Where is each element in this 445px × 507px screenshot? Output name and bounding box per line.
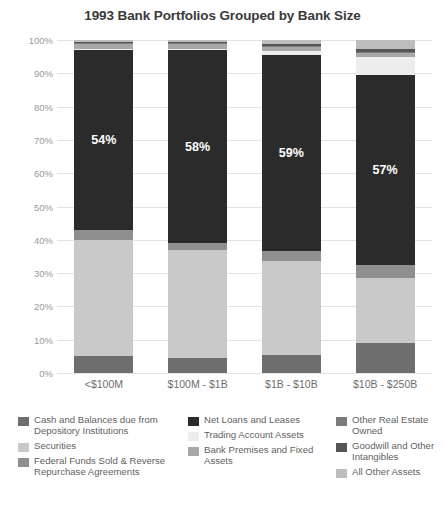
bar-segment[interactable] xyxy=(356,53,415,56)
bar-segment[interactable] xyxy=(262,46,321,48)
legend-column-2: Net Loans and LeasesTrading Account Asse… xyxy=(188,414,338,470)
chart-root: 1993 Bank Portfolios Grouped by Bank Siz… xyxy=(0,0,445,507)
bar-segment[interactable] xyxy=(262,251,321,261)
bar-segment[interactable] xyxy=(262,261,321,354)
legend-swatch-icon xyxy=(188,432,199,441)
bar-segment[interactable] xyxy=(74,49,133,50)
bar-segment[interactable] xyxy=(262,44,321,46)
bar-1[interactable]: 54% xyxy=(74,40,133,373)
bar-segment[interactable] xyxy=(168,50,227,243)
bar-segment[interactable] xyxy=(74,44,133,49)
chart-legend: Cash and Balances due from Depository In… xyxy=(0,414,445,484)
bar-2[interactable]: 58% xyxy=(168,40,227,373)
bar-3[interactable]: 59% xyxy=(262,40,321,373)
y-axis-tick-label: 50% xyxy=(9,201,53,212)
bar-segment[interactable] xyxy=(74,43,133,45)
gridline xyxy=(57,373,432,374)
bar-segment[interactable] xyxy=(74,40,133,42)
bar-segment[interactable] xyxy=(168,40,227,42)
y-axis-tick-label: 60% xyxy=(9,168,53,179)
legend-label: Trading Account Assets xyxy=(204,429,304,440)
bar-segment[interactable] xyxy=(168,243,227,250)
legend-item[interactable]: Bank Premises and Fixed Assets xyxy=(188,444,338,467)
legend-item[interactable]: Goodwill and Other Intangibles xyxy=(336,440,444,463)
bar-segment[interactable] xyxy=(74,42,133,43)
bar-segment[interactable] xyxy=(262,51,321,55)
y-axis-tick-label: 90% xyxy=(9,68,53,79)
bar-segment[interactable] xyxy=(74,240,133,357)
legend-item[interactable]: Other Real Estate Owned xyxy=(336,414,444,437)
legend-column-3: Other Real Estate OwnedGoodwill and Othe… xyxy=(336,414,444,481)
legend-label: Other Real Estate Owned xyxy=(352,414,444,437)
page-title: 1993 Bank Portfolios Grouped by Bank Siz… xyxy=(0,8,445,23)
legend-label: Goodwill and Other Intangibles xyxy=(352,440,444,463)
bar-segment[interactable] xyxy=(168,42,227,43)
bar-segment[interactable] xyxy=(356,278,415,343)
bar-segment[interactable] xyxy=(262,355,321,373)
legend-swatch-icon xyxy=(188,447,199,456)
plot-area: 54%58%59%57% xyxy=(57,40,432,373)
legend-swatch-icon xyxy=(188,417,199,426)
bar-segment[interactable] xyxy=(74,230,133,240)
y-axis-tick-label: 70% xyxy=(9,134,53,145)
bar-segment[interactable] xyxy=(168,44,227,48)
legend-label: Net Loans and Leases xyxy=(204,414,300,425)
bar-segment[interactable] xyxy=(356,40,415,49)
legend-column-1: Cash and Balances due from Depository In… xyxy=(18,414,190,481)
bar-segment[interactable] xyxy=(262,55,321,251)
legend-label: Cash and Balances due from Depository In… xyxy=(34,414,190,437)
y-axis-tick-label: 20% xyxy=(9,301,53,312)
bar-segment[interactable] xyxy=(168,43,227,45)
y-axis-tick-label: 30% xyxy=(9,268,53,279)
bar-segment[interactable] xyxy=(356,75,415,265)
y-axis-tick-label: 100% xyxy=(9,35,53,46)
bar-segment[interactable] xyxy=(168,49,227,50)
legend-item[interactable]: Cash and Balances due from Depository In… xyxy=(18,414,190,437)
bar-segment[interactable] xyxy=(262,47,321,51)
legend-label: All Other Assets xyxy=(352,466,420,477)
legend-label: Bank Premises and Fixed Assets xyxy=(204,444,338,467)
bar-segment[interactable] xyxy=(74,50,133,230)
bar-segment[interactable] xyxy=(356,265,415,278)
legend-item[interactable]: All Other Assets xyxy=(336,466,444,478)
legend-swatch-icon xyxy=(336,469,347,478)
bar-segment[interactable] xyxy=(262,40,321,44)
bar-4[interactable]: 57% xyxy=(356,40,415,373)
bar-segment[interactable] xyxy=(356,343,415,373)
legend-swatch-icon xyxy=(336,443,347,452)
y-axis-tick-label: 10% xyxy=(9,334,53,345)
legend-swatch-icon xyxy=(18,458,29,467)
bar-segment[interactable] xyxy=(356,57,415,75)
legend-item[interactable]: Trading Account Assets xyxy=(188,429,338,441)
y-axis-tick-label: 0% xyxy=(9,368,53,379)
legend-item[interactable]: Securities xyxy=(18,440,190,452)
bar-segment[interactable] xyxy=(74,356,133,373)
legend-swatch-icon xyxy=(336,417,347,426)
bar-segment[interactable] xyxy=(168,250,227,358)
legend-label: Securities xyxy=(34,440,76,451)
legend-swatch-icon xyxy=(18,417,29,426)
legend-swatch-icon xyxy=(18,443,29,452)
y-axis-tick-label: 80% xyxy=(9,101,53,112)
x-axis-category-label: $10B - $250B xyxy=(325,378,445,390)
legend-label: Federal Funds Sold & Reverse Repurchase … xyxy=(34,455,190,478)
y-axis-tick-label: 40% xyxy=(9,234,53,245)
legend-item[interactable]: Net Loans and Leases xyxy=(188,414,338,426)
legend-item[interactable]: Federal Funds Sold & Reverse Repurchase … xyxy=(18,455,190,478)
bar-segment[interactable] xyxy=(168,358,227,373)
bar-segment[interactable] xyxy=(356,49,415,51)
bar-segment[interactable] xyxy=(356,52,415,54)
